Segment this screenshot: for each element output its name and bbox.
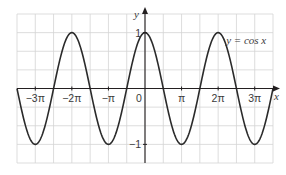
y-tick-label: −1 [129,138,141,150]
x-axis-label: x [273,90,279,102]
x-tick-label: −π [102,92,115,104]
origin-label: 0 [136,92,142,104]
cosine-chart: −3π−2π−ππ2π3π1−1 x y 0 y = cos x [0,0,286,175]
curve-annotation: y = cos x [225,34,266,46]
x-tick-label: 2π [212,92,225,104]
y-axis-arrow-icon [142,7,148,14]
y-tick-label: 1 [135,27,141,39]
x-tick-label: 3π [248,92,261,104]
x-tick-label: −2π [62,92,81,104]
x-tick-label: −3π [26,92,45,104]
x-tick-label: π [178,92,185,104]
y-axis-label: y [133,8,139,20]
